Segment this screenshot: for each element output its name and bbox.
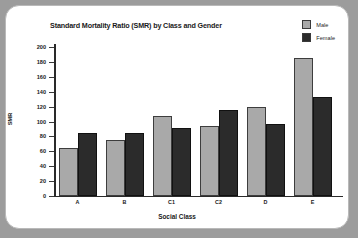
y-tick-label: 80: [24, 133, 46, 139]
bar-groups: [54, 47, 336, 196]
bar-male-b: [106, 140, 125, 196]
y-tick-mark: [49, 166, 54, 167]
y-axis-tick-labels: 020406080100120140160180200: [20, 6, 46, 229]
female-swatch-icon: [302, 33, 311, 42]
bar-male-c1: [153, 116, 172, 196]
legend-item-female: Female: [302, 33, 335, 42]
bar-male-e: [294, 58, 313, 196]
chart-title: Standard Mortality Ratio (SMR) by Class …: [50, 21, 222, 30]
bar-group: [153, 47, 191, 196]
y-tick-label: 20: [24, 178, 46, 184]
chart-legend: Male Female: [302, 20, 335, 42]
x-axis-title: Social Class: [6, 213, 348, 220]
y-tick-label: 140: [24, 89, 46, 95]
y-tick-label: 120: [24, 104, 46, 110]
bar-female-c2: [219, 110, 238, 196]
bar-group: [59, 47, 97, 196]
y-tick-mark: [49, 107, 54, 108]
bar-female-c1: [172, 128, 191, 196]
y-tick-label: 60: [24, 148, 46, 154]
x-tick-label: D: [264, 199, 268, 205]
bar-group: [200, 47, 238, 196]
bar-group: [247, 47, 285, 196]
y-tick-mark: [49, 47, 54, 48]
y-tick-mark: [49, 151, 54, 152]
y-tick-label: 40: [24, 163, 46, 169]
y-tick-mark: [49, 196, 54, 197]
plot-area: [54, 47, 336, 196]
bar-female-a: [78, 133, 97, 196]
bar-female-d: [266, 124, 285, 196]
x-tick-label: E: [311, 199, 315, 205]
x-tick-label: A: [76, 199, 80, 205]
bar-group: [294, 47, 332, 196]
y-tick-label: 180: [24, 59, 46, 65]
y-tick-mark: [49, 136, 54, 137]
y-tick-label: 160: [24, 74, 46, 80]
y-tick-mark: [49, 92, 54, 93]
y-tick-label: 200: [24, 44, 46, 50]
legend-item-male: Male: [302, 20, 335, 29]
x-tick-label: C1: [168, 199, 175, 205]
male-swatch-icon: [302, 20, 311, 29]
bar-male-d: [247, 107, 266, 196]
legend-label-female: Female: [316, 35, 335, 41]
bar-group: [106, 47, 144, 196]
x-tick-label: C2: [215, 199, 222, 205]
y-tick-mark: [49, 122, 54, 123]
y-tick-mark: [49, 77, 54, 78]
legend-label-male: Male: [316, 22, 328, 28]
y-axis-title: SMR: [7, 113, 13, 125]
y-tick-mark: [49, 181, 54, 182]
x-tick-label: B: [123, 199, 127, 205]
y-tick-label: 100: [24, 119, 46, 125]
bar-male-a: [59, 148, 78, 196]
y-tick-label: 0: [24, 193, 46, 199]
y-tick-mark: [49, 62, 54, 63]
chart-frame: Standard Mortality Ratio (SMR) by Class …: [5, 5, 349, 229]
bar-female-e: [313, 97, 332, 196]
bar-male-c2: [200, 126, 219, 196]
bar-female-b: [125, 133, 144, 196]
